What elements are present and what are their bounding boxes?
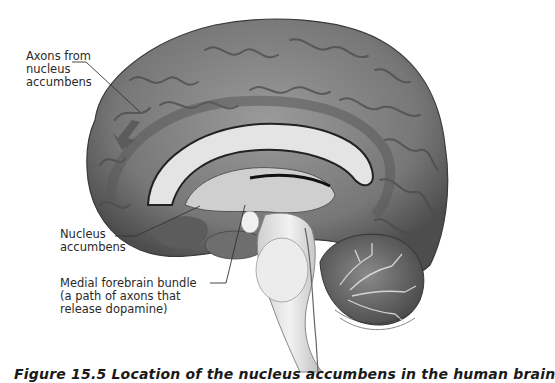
label-medial-forebrain-bundle: Medial forebrain bundle (a path of axons… (60, 277, 197, 316)
label-nucleus-accumbens: Nucleus accumbens (60, 228, 126, 254)
label-axons-from-nucleus-accumbens: Axons from nucleus accumbens (26, 50, 92, 89)
cerebellum (320, 234, 424, 330)
figure-caption: Figure 15.5 Location of the nucleus accu… (14, 366, 555, 382)
